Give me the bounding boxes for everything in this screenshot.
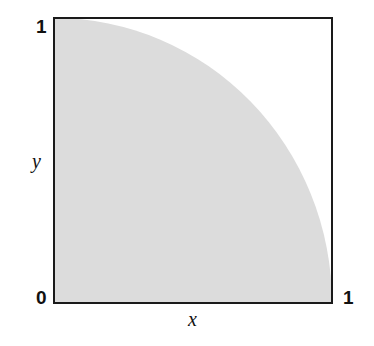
x-axis-label: x — [188, 308, 197, 331]
y-axis-label: y — [32, 150, 41, 173]
y-max-tick-label: 1 — [36, 16, 47, 38]
origin-tick-label: 0 — [36, 287, 47, 309]
quarter-disk-region — [54, 18, 332, 303]
x-max-tick-label: 1 — [343, 287, 354, 309]
quarter-circle-diagram — [0, 0, 374, 346]
